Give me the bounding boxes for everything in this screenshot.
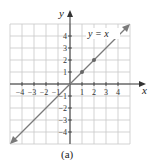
point-2-2 (92, 58, 96, 62)
y-axis-arrow-icon (67, 10, 73, 17)
y-tick-label: −4 (58, 128, 67, 137)
y-tick-label: 3 (63, 44, 67, 53)
y-tick-label: −3 (58, 116, 67, 125)
x-tick-label: −2 (40, 88, 49, 97)
x-tick-label: 2 (92, 88, 96, 97)
x-tick-label: −4 (16, 88, 25, 97)
x-tick-label: 1 (80, 88, 84, 97)
y-tick-label: −1 (58, 92, 67, 101)
x-axis-label: x (141, 84, 147, 96)
y-axis-label: y (58, 7, 64, 19)
y-tick-label: 2 (63, 56, 67, 65)
y-tick-label: 4 (63, 32, 67, 41)
point-1-1 (80, 70, 84, 74)
x-tick-label: 4 (116, 88, 120, 97)
y-tick-label: −2 (58, 104, 67, 113)
x-tick-label: 3 (104, 88, 108, 97)
figure-caption: (a) (61, 148, 74, 160)
equation-label: y = x (87, 28, 109, 39)
x-tick-label: −3 (28, 88, 37, 97)
graph-canvas: y x y = x −4−3−2−112344321−1−2−3−4 (a) (0, 0, 154, 160)
y-tick-label: 1 (63, 68, 67, 77)
